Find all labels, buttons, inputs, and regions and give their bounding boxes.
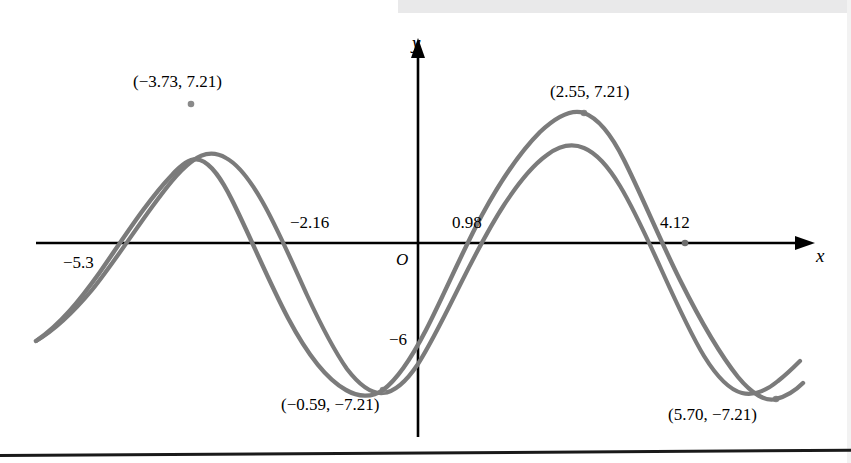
x-intercept-label-1: −5.3 [63,253,94,273]
annotation-max-left: (−3.73, 7.21) [133,72,222,92]
annotation-max-right: (2.55, 7.21) [550,82,629,102]
origin-label: O [396,250,408,270]
marker-min-right [773,396,780,403]
x-intercept-label-3: 0.98 [452,213,482,233]
marker-max-left [188,101,195,108]
figure-canvas: (−3.73, 7.21) (−0.59, −7.21) (2.55, 7.21… [0,0,851,463]
x-axis [36,236,815,250]
marker-max-right [581,110,588,117]
x-intercept-label-4: 4.12 [660,213,690,233]
annotation-min-right: (5.70, −7.21) [668,405,757,425]
y-value-label: −6 [389,330,407,350]
annotation-min-left: (−0.59, −7.21) [281,395,380,415]
y-axis-label: y [412,32,420,54]
y-axis [411,38,425,437]
sinusoid-plot [0,0,851,463]
marker-min-left [380,387,387,394]
x-intercept-label-2: −2.16 [290,213,329,233]
x-axis-label: x [816,245,824,267]
marker-x-intercept-4 [682,240,689,247]
